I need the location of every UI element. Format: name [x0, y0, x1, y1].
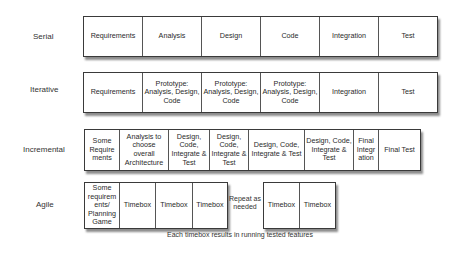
incremental-increment-3: Design, Code, Integrate & Test [249, 130, 305, 170]
incremental-final-integration: Final Integr ation [354, 130, 379, 170]
serial-test: Test [379, 17, 437, 56]
incremental-final-test: Final Test [379, 130, 420, 170]
serial-analysis: Analysis [143, 17, 202, 56]
agile-timebox-2: Timebox [156, 183, 193, 228]
iterative-test: Test [379, 73, 437, 112]
iterative-prototype-2: Prototype: Analysis, Design, Code [202, 73, 261, 112]
iterative-prototype-3: Prototype: Analysis, Design, Code [261, 73, 320, 112]
serial-requirements: Requirements [84, 17, 143, 56]
serial-design: Design [202, 17, 261, 56]
agile-caption: Each timebox results in running tested f… [150, 231, 330, 239]
incremental-some-requirements: Some Require ments [85, 130, 120, 170]
incremental-analysis-architecture: Analysis to choose overall Architecture [120, 130, 169, 170]
repeat-as-needed-note: Repeat as needed [228, 195, 262, 211]
agile-strip-2: Timebox Timebox [263, 182, 336, 229]
serial-code: Code [261, 17, 320, 56]
serial-strip: Requirements Analysis Design Code Integr… [83, 16, 438, 57]
iterative-prototype-1: Prototype: Analysis, Design, Code [143, 73, 202, 112]
row-label-serial: Serial [33, 32, 53, 41]
serial-integration: Integration [320, 17, 379, 56]
incremental-strip: Some Require ments Analysis to choose ov… [84, 129, 421, 171]
agile-strip-1: Some requirem ents/ Planning Game Timebo… [84, 182, 228, 229]
row-label-agile: Agile [36, 200, 54, 209]
row-label-iterative: Iterative [30, 85, 58, 94]
agile-timebox-1: Timebox [120, 183, 156, 228]
iterative-requirements: Requirements [84, 73, 143, 112]
iterative-strip: Requirements Prototype: Analysis, Design… [83, 72, 438, 113]
agile-planning-game: Some requirem ents/ Planning Game [85, 183, 120, 228]
row-label-incremental: Incremental [23, 145, 65, 154]
incremental-increment-4: Design, Code, Integrate & Test [305, 130, 354, 170]
agile-timebox-3: Timebox [193, 183, 227, 228]
iterative-integration: Integration [320, 73, 379, 112]
incremental-increment-2: Design, Code, Integrate & Test [210, 130, 249, 170]
agile-timebox-5: Timebox [300, 183, 335, 228]
agile-timebox-4: Timebox [264, 183, 300, 228]
incremental-increment-1: Design, Code, Integrate & Test [169, 130, 210, 170]
